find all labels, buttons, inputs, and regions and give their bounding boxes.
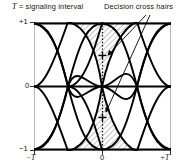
- eye-diagram-plot: [0, 0, 196, 164]
- eye-diagram-figure: T = signaling interval Decision cross ha…: [0, 0, 196, 164]
- trace-edge-left-up: [34, 22, 68, 87]
- trace-edge-right-down: [137, 87, 171, 152]
- trace-edge-left-down: [34, 87, 68, 152]
